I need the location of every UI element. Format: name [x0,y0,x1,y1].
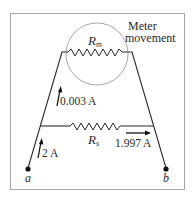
terminal-a-label: a [25,171,31,185]
meter-movement-circle [66,23,128,85]
shunt-current-label: 1.997 A [115,137,152,149]
meter-label-line2: movement [125,31,176,45]
arrow-shunt-current-icon [126,131,151,136]
rm-resistor [68,49,126,56]
terminal-b-label: b [163,171,169,185]
total-current-label: 2 A [42,147,59,159]
right-wire [126,52,166,168]
meter-current-label: 0.003 A [60,95,97,107]
rs-resistor [70,123,120,130]
rs-label: Rs [87,132,99,148]
rm-label: Rm [87,33,102,49]
shunt-circuit-diagram: Meter movement Rm Rs 0.003 A 2 A 1.997 A… [0,0,192,204]
